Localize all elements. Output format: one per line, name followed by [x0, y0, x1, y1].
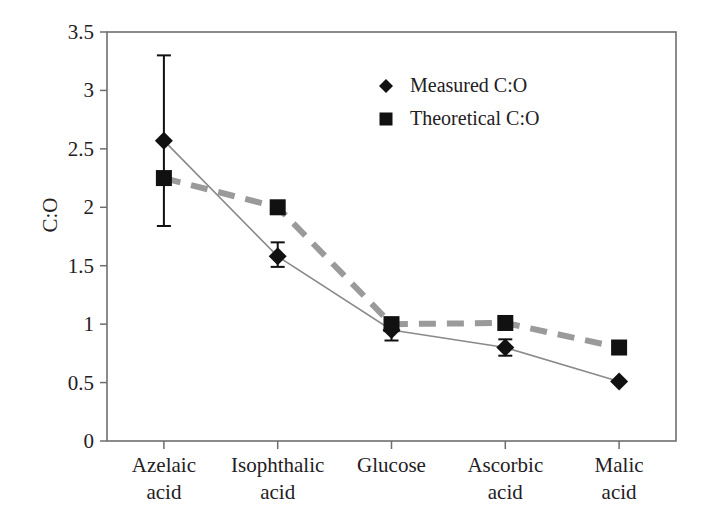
y-axis-tick-label: 2 [84, 195, 95, 219]
y-axis-tick-label: 1.5 [68, 254, 94, 278]
legend-item-label: Theoretical C:O [410, 107, 539, 129]
y-axis-tick-label: 3.5 [68, 20, 94, 44]
theoretical-square-marker [270, 199, 286, 215]
y-axis-title: C:O [38, 197, 62, 232]
legend-square-icon [380, 113, 393, 126]
chart-container: 00.511.522.533.5 AzelaicacidIsophthalica… [0, 0, 708, 518]
y-axis-tick-label: 0.5 [68, 371, 94, 395]
theoretical-square-marker [497, 315, 513, 331]
y-axis-tick-label: 2.5 [68, 137, 94, 161]
y-axis-tick-label: 0 [84, 429, 95, 453]
x-axis-tick-label: Glucose [357, 453, 426, 477]
y-axis-tick-label: 3 [84, 78, 95, 102]
co-ratio-line-chart: 00.511.522.533.5 AzelaicacidIsophthalica… [0, 0, 708, 518]
theoretical-square-marker [156, 170, 172, 186]
legend-item-label: Measured C:O [410, 74, 527, 96]
theoretical-square-marker [611, 340, 627, 356]
y-axis-tick-label: 1 [84, 312, 95, 336]
